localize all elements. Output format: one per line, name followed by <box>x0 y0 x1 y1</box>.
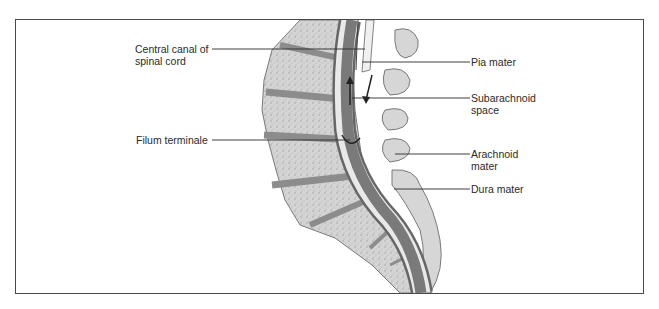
label-subarachnoid-line1: Subarachnoid <box>471 92 536 104</box>
label-central-canal-line1: Central canal of <box>135 43 209 55</box>
label-subarachnoid-line2: space <box>471 104 536 116</box>
label-central-canal: Central canal of spinal cord <box>135 43 209 67</box>
label-dura-mater: Dura mater <box>471 183 524 195</box>
spine-illustration <box>0 0 659 309</box>
label-arachnoid-line1: Arachnoid <box>471 148 518 160</box>
label-subarachnoid-space: Subarachnoid space <box>471 92 536 116</box>
label-central-canal-line2: spinal cord <box>135 55 209 67</box>
label-arachnoid-mater: Arachnoid mater <box>471 148 518 172</box>
label-filum-terminale: Filum terminale <box>136 134 208 146</box>
label-arachnoid-line2: mater <box>471 160 518 172</box>
label-pia-mater-line1: Pia mater <box>471 56 516 68</box>
label-pia-mater: Pia mater <box>471 56 516 68</box>
label-dura-mater-line1: Dura mater <box>471 183 524 195</box>
label-filum-terminale-line1: Filum terminale <box>136 134 208 146</box>
